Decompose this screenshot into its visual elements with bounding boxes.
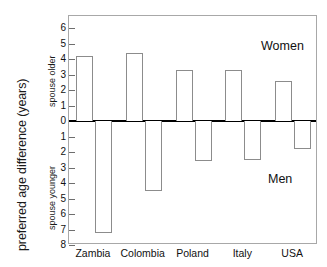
y-tick-mark bbox=[69, 183, 75, 184]
y-tick-label: 7 bbox=[60, 225, 66, 235]
y-tick-mark bbox=[69, 44, 75, 45]
bar-men-poland bbox=[195, 121, 212, 161]
y-tick-mark bbox=[69, 59, 75, 60]
y-axis-note-lower: spouse younger bbox=[48, 166, 57, 230]
bar-women-poland bbox=[176, 70, 193, 121]
y-tick-label: 2 bbox=[60, 147, 66, 157]
y-tick-label: 4 bbox=[60, 54, 66, 64]
bar-men-colombia bbox=[145, 121, 162, 191]
x-axis-label-italy: Italy bbox=[233, 247, 252, 259]
y-tick-label: 2 bbox=[60, 85, 66, 95]
y-axis-note-upper: spouse older bbox=[48, 55, 57, 107]
y-tick-mark bbox=[69, 199, 75, 200]
y-tick-label: 0 bbox=[60, 116, 66, 126]
x-axis-label-poland: Poland bbox=[176, 247, 209, 259]
bar-men-zambia bbox=[95, 121, 112, 232]
y-tick-mark bbox=[69, 106, 75, 107]
y-tick-mark bbox=[69, 152, 75, 153]
y-tick-mark bbox=[69, 230, 75, 231]
y-tick-label: 5 bbox=[60, 39, 66, 49]
y-axis-title: preferred age difference (years) bbox=[16, 79, 29, 251]
y-tick-mark bbox=[69, 75, 75, 76]
x-axis-label-usa: USA bbox=[281, 247, 303, 259]
bar-women-usa bbox=[275, 81, 292, 121]
y-tick-mark bbox=[69, 90, 75, 91]
y-tick-label: 8 bbox=[60, 240, 66, 250]
bar-women-italy bbox=[225, 70, 242, 121]
y-tick-label: 3 bbox=[60, 163, 66, 173]
y-tick-label: 3 bbox=[60, 70, 66, 80]
y-tick-label: 1 bbox=[60, 132, 66, 142]
y-tick-label: 6 bbox=[60, 23, 66, 33]
y-tick-label: 5 bbox=[60, 194, 66, 204]
y-tick-mark bbox=[69, 214, 75, 215]
bar-men-italy bbox=[244, 121, 261, 160]
chart-figure: preferred age difference (years) spouse … bbox=[0, 0, 327, 267]
bar-women-zambia bbox=[76, 56, 93, 121]
bar-men-usa bbox=[294, 121, 311, 149]
plot-area: 654321012345678 Women Men bbox=[68, 15, 317, 244]
x-axis-label-zambia: Zambia bbox=[75, 247, 110, 259]
annotation-men: Men bbox=[268, 172, 292, 186]
annotation-women: Women bbox=[261, 39, 304, 53]
y-tick-mark bbox=[69, 245, 75, 246]
y-tick-mark bbox=[69, 168, 75, 169]
y-tick-mark bbox=[69, 137, 75, 138]
y-tick-label: 1 bbox=[60, 101, 66, 111]
x-axis-label-colombia: Colombia bbox=[121, 247, 165, 259]
y-tick-label: 4 bbox=[60, 178, 66, 188]
y-tick-label: 6 bbox=[60, 209, 66, 219]
bar-women-colombia bbox=[126, 53, 143, 121]
y-tick-mark bbox=[69, 28, 75, 29]
